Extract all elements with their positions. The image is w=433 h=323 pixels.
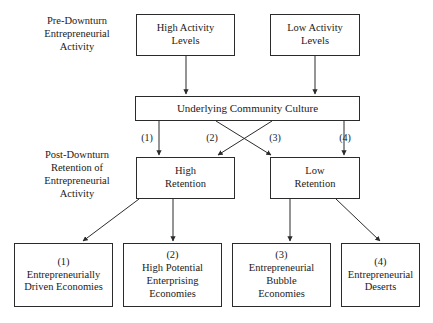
edge-high-retention-to-outcome-1 — [83, 199, 139, 241]
node-underlying-community-culture[interactable]: Underlying Community Culture — [135, 96, 360, 121]
node-low-activity-levels[interactable]: Low Activity Levels — [270, 14, 360, 56]
node-low-activity-levels-label: Low Activity Levels — [287, 22, 343, 48]
node-outcome-4-label: (4) Entrepreneurial Deserts — [348, 256, 413, 294]
edge-label-4: (4) — [334, 133, 356, 143]
node-outcome-1-label: (1) Entrepreneurially Driven Economies — [24, 256, 102, 294]
node-outcome-entrepreneurial-deserts[interactable]: (4) Entrepreneurial Deserts — [341, 243, 420, 307]
node-low-retention[interactable]: Low Retention — [270, 157, 360, 199]
row-label-pre-downturn: Pre-Downturn Entrepreneurial Activity — [22, 14, 132, 53]
node-outcome-high-potential-enterprising-economies[interactable]: (2) High Potential Enterprising Economie… — [123, 243, 222, 307]
edge-label-2: (2) — [201, 133, 223, 143]
node-outcome-3-label: (3) Entrepreneurial Bubble Economies — [249, 249, 314, 300]
node-high-retention-label: High Retention — [165, 165, 206, 191]
edge-culture-to-low-retention-2 — [216, 121, 271, 155]
node-outcome-entrepreneurially-driven-economies[interactable]: (1) Entrepreneurially Driven Economies — [14, 243, 113, 307]
node-high-activity-levels[interactable]: High Activity Levels — [136, 14, 235, 56]
row-label-post-downturn: Post-Downturn Retention of Entrepreneuri… — [18, 148, 136, 201]
node-outcome-2-label: (2) High Potential Enterprising Economie… — [142, 249, 203, 300]
node-outcome-entrepreneurial-bubble-economies[interactable]: (3) Entrepreneurial Bubble Economies — [232, 243, 331, 307]
node-underlying-community-culture-label: Underlying Community Culture — [177, 102, 318, 115]
edge-label-1: (1) — [136, 133, 158, 143]
node-high-retention[interactable]: High Retention — [136, 157, 235, 199]
flow-diagram: Pre-Downturn Entrepreneurial Activity Po… — [0, 0, 433, 323]
edge-label-3: (3) — [264, 133, 286, 143]
node-high-activity-levels-label: High Activity Levels — [157, 22, 214, 48]
edge-low-retention-to-outcome-4 — [336, 199, 380, 241]
node-low-retention-label: Low Retention — [295, 165, 336, 191]
